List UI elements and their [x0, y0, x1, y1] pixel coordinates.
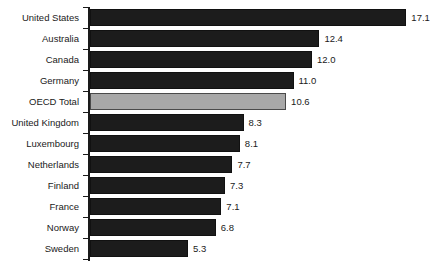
bar-row: OECD Total10.6: [0, 91, 443, 112]
axis-tick: [83, 28, 89, 29]
axis-tick: [83, 196, 89, 197]
bar-value-label: 11.0: [299, 72, 317, 89]
bar-value-label: 12.0: [317, 51, 336, 68]
bar: [90, 198, 221, 215]
bar-value-label: 8.3: [249, 114, 262, 131]
bar-value-label: 17.1: [411, 9, 430, 26]
axis-tick: [83, 259, 89, 260]
axis-tick: [83, 133, 89, 134]
category-label: Luxembourg: [0, 133, 79, 154]
bar: [90, 114, 244, 131]
bar: [90, 51, 312, 68]
axis-tick: [83, 154, 89, 155]
category-label: OECD Total: [0, 91, 79, 112]
category-label: Australia: [0, 28, 79, 49]
category-label: United Kingdom: [0, 112, 79, 133]
bar: [90, 240, 188, 257]
bar-row: Netherlands7.7: [0, 154, 443, 175]
axis-tick: [83, 217, 89, 218]
bar-row: Australia12.4: [0, 28, 443, 49]
category-label: United States: [0, 7, 79, 28]
bar: [90, 156, 232, 173]
axis-tick: [83, 91, 89, 92]
bar-value-label: 7.7: [237, 156, 250, 173]
category-label: Germany: [0, 70, 79, 91]
bar-row: United Kingdom8.3: [0, 112, 443, 133]
bar-row: Norway6.8: [0, 217, 443, 238]
bar: [90, 72, 294, 89]
category-label: Sweden: [0, 238, 79, 259]
category-label: Netherlands: [0, 154, 79, 175]
axis-tick: [83, 112, 89, 113]
bar-rows: United States17.1Australia12.4Canada12.0…: [0, 7, 443, 259]
bar: [90, 9, 406, 26]
category-label: France: [0, 196, 79, 217]
bar-chart: United States17.1Australia12.4Canada12.0…: [0, 0, 443, 273]
bar-value-label: 5.3: [193, 240, 206, 257]
bar-value-label: 12.4: [324, 30, 343, 47]
bar-value-label: 10.6: [291, 93, 310, 110]
bar: [90, 177, 225, 194]
bar-value-label: 7.3: [230, 177, 243, 194]
bar-row: France7.1: [0, 196, 443, 217]
bar-row: Finland7.3: [0, 175, 443, 196]
bar-row: Germany11.0: [0, 70, 443, 91]
bar-row: Canada12.0: [0, 49, 443, 70]
bar: [90, 30, 319, 47]
axis-tick: [83, 238, 89, 239]
category-label: Canada: [0, 49, 79, 70]
axis-tick: [83, 7, 89, 8]
bar: [90, 219, 216, 236]
bar-highlight: [90, 93, 286, 110]
axis-tick: [83, 175, 89, 176]
category-label: Norway: [0, 217, 79, 238]
bar-row: Sweden5.3: [0, 238, 443, 259]
bar-value-label: 8.1: [245, 135, 258, 152]
bar: [90, 135, 240, 152]
axis-tick: [83, 70, 89, 71]
bar-value-label: 6.8: [221, 219, 234, 236]
axis-tick: [83, 49, 89, 50]
bar-value-label: 7.1: [226, 198, 239, 215]
category-label: Finland: [0, 175, 79, 196]
bar-row: United States17.1: [0, 7, 443, 28]
plot-area: United States17.1Australia12.4Canada12.0…: [0, 0, 443, 273]
bar-row: Luxembourg8.1: [0, 133, 443, 154]
